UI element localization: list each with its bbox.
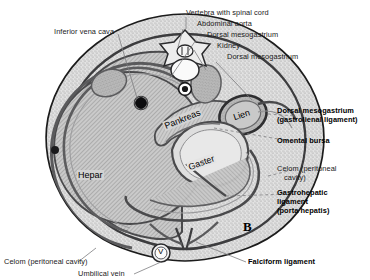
figure-marker-b: B — [243, 219, 252, 235]
label-vertebra-with-spinal-cord: Vertebra with spinal cord — [186, 9, 269, 18]
spinal-canal — [177, 45, 193, 57]
organ-label-hepar: Hepar — [77, 170, 104, 180]
organ-label-umbilical-vein-glyph: V — [158, 247, 163, 256]
label-dorsal-mesogastrium-gastrolienal-line2: (gastrolienal ligament) — [277, 116, 358, 125]
label-gastrohepatic-ligament-line3: (porta hepatis) — [277, 207, 329, 216]
label-umbilical-vein: Umbilical vein — [78, 270, 125, 279]
label-inferior-vena-cava: Inferior vena cava — [54, 28, 114, 37]
abdominal-aorta — [179, 83, 192, 96]
label-dorsal-mesogastrium-top: Dorsal mesogastrium — [207, 31, 278, 40]
label-omental-bursa: Omental bursa — [277, 137, 330, 146]
left-wall-vessel — [51, 146, 59, 154]
label-celom-peritoneal-cavity-bottom: Celom (peritoneal cavity) — [4, 258, 88, 267]
label-falciform-ligament: Falciform ligament — [248, 258, 315, 267]
label-dorsal-mesogastrium-second: Dorsal mesogastrium — [227, 53, 298, 62]
label-celom-peritoneal-cavity-right-line2: cavity) — [284, 174, 306, 183]
leader-umbilical-vein — [134, 262, 161, 274]
inferior-vena-cava — [134, 96, 148, 110]
label-abdominal-aorta: Abdominal aorta — [197, 20, 252, 29]
label-kidney: Kidney — [217, 42, 240, 51]
